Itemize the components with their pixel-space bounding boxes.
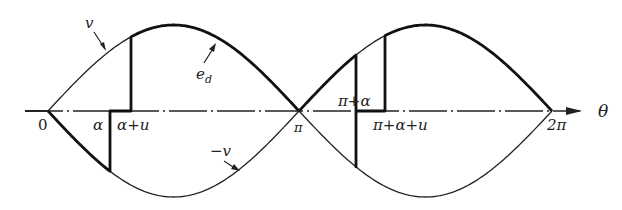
tick-label-pi-plus-alpha-plus-u: π+α+u [372, 116, 428, 134]
tick-label-alpha-plus-u: α+u [117, 116, 149, 134]
curve-label-v: v [85, 14, 94, 32]
axis-label-theta: θ [598, 101, 608, 121]
tick-label-2pi: 2π [546, 116, 568, 134]
waveform-diagram: 0 α α+u π π+α π+α+u 2π θ v ed −v [0, 0, 622, 210]
arrowhead-icon [231, 164, 240, 171]
tick-label-pi: π [293, 120, 303, 135]
tick-label-alpha: α [93, 116, 103, 134]
curve-label-ed: ed [196, 65, 212, 86]
arrowhead-icon [209, 43, 216, 52]
tick-label-0: 0 [38, 116, 48, 134]
curve-label-neg-v: −v [210, 142, 232, 160]
tick-label-pi-plus-alpha: π+α [337, 92, 371, 110]
